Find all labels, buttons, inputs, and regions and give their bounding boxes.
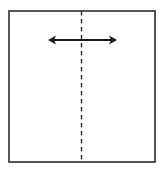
- fold-diagram: [0, 0, 164, 170]
